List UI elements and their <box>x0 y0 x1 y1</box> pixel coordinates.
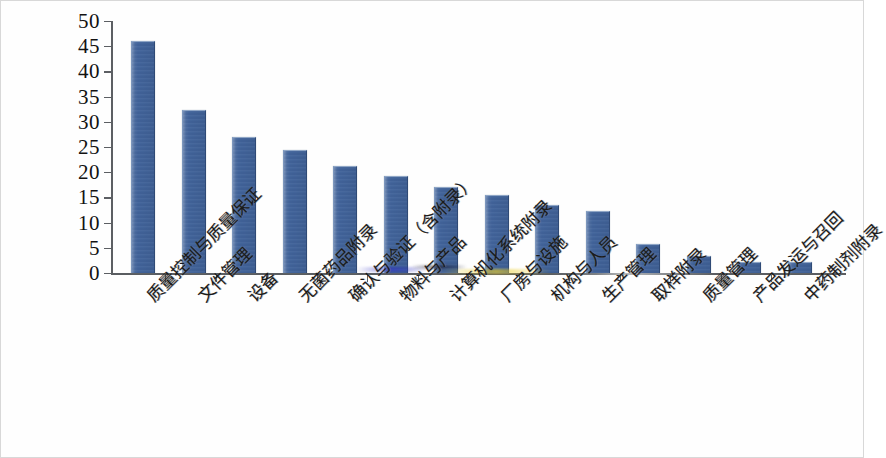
y-tick-mark <box>104 71 111 72</box>
bar[interactable] <box>283 150 307 273</box>
y-tick-mark <box>104 122 111 123</box>
y-tick-mark <box>104 21 111 22</box>
y-tick-label: 10 <box>78 210 100 235</box>
y-tick-label: 20 <box>78 160 100 185</box>
y-tick-label: 5 <box>89 235 100 260</box>
y-tick-mark <box>104 147 111 148</box>
bar[interactable] <box>131 41 155 273</box>
y-tick-mark <box>104 248 111 249</box>
y-axis-line <box>111 21 113 274</box>
y-tick-mark <box>104 172 111 173</box>
y-tick-label: 25 <box>78 135 100 160</box>
y-tick-label: 45 <box>78 34 100 59</box>
y-tick-mark <box>104 223 111 224</box>
y-tick-mark <box>104 97 111 98</box>
y-tick-label: 50 <box>78 9 100 34</box>
y-tick-label: 40 <box>78 59 100 84</box>
y-tick-mark <box>104 197 111 198</box>
y-tick-mark <box>104 46 111 47</box>
y-tick-mark <box>104 273 111 274</box>
y-tick-label: 0 <box>89 261 100 286</box>
y-tick-label: 30 <box>78 109 100 134</box>
y-tick-label: 15 <box>78 185 100 210</box>
y-tick-label: 35 <box>78 84 100 109</box>
